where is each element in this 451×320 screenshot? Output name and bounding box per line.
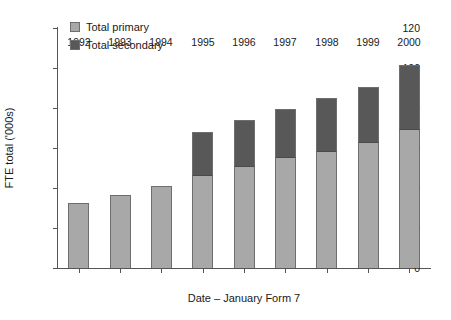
- y-axis-tick-label: 120: [402, 22, 420, 34]
- y-axis-tick: [53, 228, 58, 229]
- bar-group[interactable]: [316, 98, 337, 268]
- bar-segment-total-secondary[interactable]: [358, 87, 379, 143]
- bar-segment-total-primary[interactable]: [192, 176, 213, 268]
- x-axis-tick: [203, 268, 204, 273]
- x-axis-tick: [79, 268, 80, 273]
- y-axis-tick: [53, 188, 58, 189]
- x-axis-tick: [327, 268, 328, 273]
- bar-group[interactable]: [110, 195, 131, 268]
- bar-group[interactable]: [68, 203, 89, 268]
- bar-segment-total-primary[interactable]: [399, 130, 420, 268]
- bar-group[interactable]: [151, 186, 172, 268]
- legend-label-total-primary: Total primary: [86, 21, 149, 33]
- bar-group[interactable]: [234, 120, 255, 268]
- x-axis-tick-label: 1995: [191, 36, 214, 48]
- bar-segment-total-secondary[interactable]: [192, 132, 213, 176]
- x-axis-tick-label: 2000: [397, 36, 420, 48]
- bar-segment-total-primary[interactable]: [358, 143, 379, 268]
- x-axis-tick-label: 1996: [232, 36, 255, 48]
- bar-group[interactable]: [358, 87, 379, 268]
- x-axis-tick: [409, 268, 410, 273]
- x-axis-tick: [368, 268, 369, 273]
- bar-chart: 0204060801001201992199319941995199619971…: [0, 0, 451, 320]
- x-axis-tick: [285, 268, 286, 273]
- bar-segment-total-secondary[interactable]: [275, 109, 296, 158]
- bar-group[interactable]: [192, 132, 213, 268]
- bar-group[interactable]: [399, 65, 420, 268]
- y-axis-tick: [53, 148, 58, 149]
- bar-segment-total-secondary[interactable]: [316, 98, 337, 152]
- legend-swatch-total-primary: [70, 22, 80, 32]
- y-axis-title: FTE total ('000s): [3, 108, 15, 189]
- x-axis-tick: [161, 268, 162, 273]
- bar-segment-total-secondary[interactable]: [399, 65, 420, 130]
- legend-item-total-primary: Total primary: [70, 18, 163, 36]
- x-axis-tick-label: 1997: [273, 36, 296, 48]
- y-axis-tick: [53, 28, 58, 29]
- x-axis-tick: [244, 268, 245, 273]
- x-axis-tick-label: 1999: [356, 36, 379, 48]
- chart-legend: Total primary Total secondary: [70, 18, 163, 54]
- y-axis-tick: [53, 268, 58, 269]
- bar-segment-total-primary[interactable]: [151, 186, 172, 268]
- plot-area: 0204060801001201992199319941995199619971…: [58, 28, 430, 268]
- bar-segment-total-primary[interactable]: [68, 203, 89, 268]
- x-axis-title: Date – January Form 7: [188, 292, 301, 304]
- bar-segment-total-primary[interactable]: [316, 152, 337, 268]
- bar-segment-total-secondary[interactable]: [234, 120, 255, 167]
- legend-label-total-secondary: Total secondary: [86, 39, 163, 51]
- y-axis-tick: [53, 108, 58, 109]
- bar-segment-total-primary[interactable]: [275, 158, 296, 268]
- y-axis-tick: [53, 68, 58, 69]
- legend-item-total-secondary: Total secondary: [70, 36, 163, 54]
- x-axis-tick-label: 1998: [315, 36, 338, 48]
- legend-swatch-total-secondary: [70, 40, 80, 50]
- bar-segment-total-primary[interactable]: [110, 195, 131, 268]
- bar-group[interactable]: [275, 109, 296, 268]
- x-axis-tick: [120, 268, 121, 273]
- bar-segment-total-primary[interactable]: [234, 167, 255, 268]
